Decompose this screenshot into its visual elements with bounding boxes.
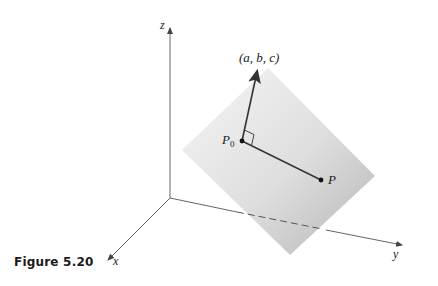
plane <box>182 68 375 255</box>
normal-vector-label: (a, b, c) <box>239 50 279 66</box>
p0-label-main: P <box>222 132 230 147</box>
y-axis-label: y <box>393 247 398 262</box>
y-axis-back <box>326 230 402 245</box>
y-axis-front <box>170 198 237 212</box>
point-p0 <box>240 139 245 144</box>
point-p <box>319 178 324 183</box>
p-label: P <box>328 172 336 188</box>
p0-label: P0 <box>222 132 234 149</box>
x-axis <box>108 198 170 260</box>
figure-caption: Figure 5.20 <box>14 255 94 269</box>
p0-label-sub: 0 <box>230 139 235 149</box>
x-axis-label: x <box>113 254 118 269</box>
z-axis-label: z <box>160 18 165 33</box>
diagram-canvas <box>0 0 438 286</box>
